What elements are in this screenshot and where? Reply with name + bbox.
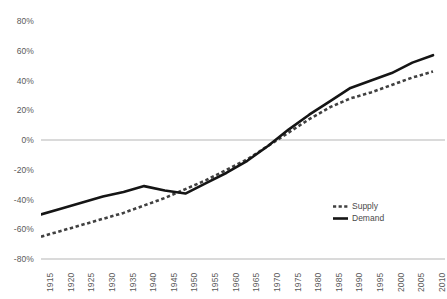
x-tick-label: 1935	[128, 273, 138, 292]
x-tick-label: 1985	[334, 273, 344, 292]
x-tick-label: 1970	[272, 273, 282, 292]
x-tick-label: 1990	[354, 273, 364, 292]
legend-label-supply: Supply	[352, 200, 378, 212]
x-tick-label: 1975	[293, 273, 303, 292]
legend-swatch-dashed-icon	[333, 202, 348, 211]
x-tick-label: 1965	[251, 273, 261, 292]
x-tick-label: 1945	[169, 273, 179, 292]
legend-swatch-solid-icon	[333, 214, 348, 223]
x-tick-label: 2005	[416, 273, 426, 292]
x-tick-label: 1940	[148, 273, 158, 292]
legend-item-supply: Supply	[333, 200, 428, 212]
x-tick-label: 1980	[313, 273, 323, 292]
x-tick-label: 1915	[45, 273, 55, 292]
x-tick-label: 2000	[396, 273, 406, 292]
x-tick-label: 1930	[107, 273, 117, 292]
x-tick-label: 1920	[66, 273, 76, 292]
chart-legend: Supply Demand	[333, 200, 428, 224]
legend-item-demand: Demand	[333, 212, 428, 224]
legend-label-demand: Demand	[352, 212, 384, 224]
x-tick-label: 1950	[189, 273, 199, 292]
x-tick-label: 2010	[437, 273, 447, 292]
x-tick-label: 1955	[210, 273, 220, 292]
x-tick-label: 1995	[375, 273, 385, 292]
x-tick-label: 1960	[231, 273, 241, 292]
x-tick-label: 1925	[86, 273, 96, 292]
